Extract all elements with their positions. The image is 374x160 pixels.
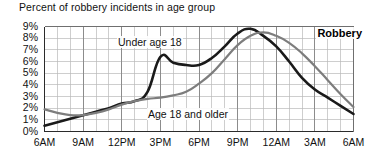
- x-tick-label: 9AM: [72, 136, 94, 148]
- x-tick-label: 12PM: [108, 136, 135, 148]
- y-tick-label: 7%: [4, 44, 38, 55]
- y-tick-label: 0%: [4, 126, 38, 137]
- series-label-under-age-18: Under age 18: [117, 36, 183, 48]
- x-tick-label: 3AM: [304, 136, 326, 148]
- y-tick-label: 1%: [4, 114, 38, 125]
- y-tick-label: 5%: [4, 67, 38, 78]
- x-tick-label: 6AM: [34, 136, 56, 148]
- x-tick-label: 12AM: [263, 136, 290, 148]
- y-tick-label: 9%: [4, 21, 38, 32]
- crime-type-annotation: Robbery: [316, 27, 363, 39]
- y-tick-label: 6%: [4, 56, 38, 67]
- robbery-age-group-chart: Percent of robbery incidents in age grou…: [0, 0, 374, 160]
- y-tick-label: 2%: [4, 102, 38, 113]
- x-tick-label: 6AM: [343, 136, 365, 148]
- series-label-age-18-and-older: Age 18 and older: [147, 108, 229, 120]
- x-tick-label: 3PM: [150, 136, 172, 148]
- x-tick-label: 6PM: [188, 136, 210, 148]
- x-tick-label: 9PM: [227, 136, 249, 148]
- y-tick-label: 3%: [4, 91, 38, 102]
- y-tick-label: 8%: [4, 32, 38, 43]
- y-tick-label: 4%: [4, 79, 38, 90]
